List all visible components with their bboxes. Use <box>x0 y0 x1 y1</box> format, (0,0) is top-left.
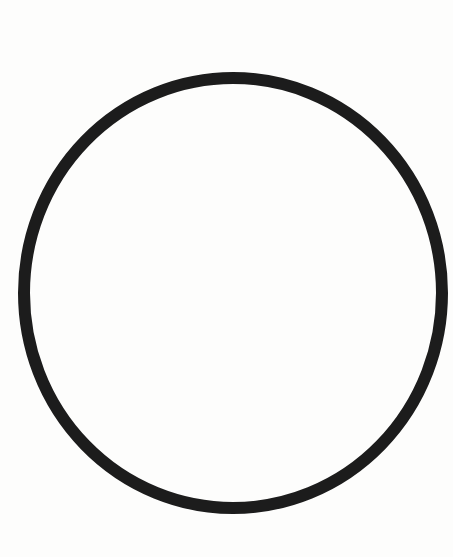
circle-outline <box>24 78 442 508</box>
figure-canvas <box>0 0 453 557</box>
circle-figure <box>0 0 453 557</box>
